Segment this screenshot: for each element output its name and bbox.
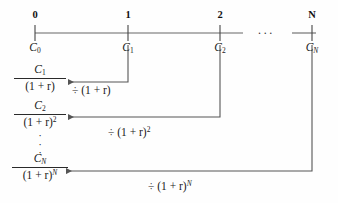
cash-flow-sub-2: 2: [222, 46, 226, 55]
operation-text-2: ÷ (1 + r): [108, 126, 147, 138]
operation-label-1: ÷ (1 + r): [72, 85, 111, 97]
operation-exp-2: 2: [147, 125, 151, 134]
fraction-denominator-1: (1 + r): [14, 80, 66, 93]
numerator-sub-1: 1: [42, 68, 46, 77]
numerator-base-2: C: [34, 99, 42, 111]
fraction-numerator-1: C1: [14, 63, 66, 77]
cash-flow-base-2: C: [214, 41, 222, 53]
fraction-numerator-2: C2: [14, 99, 66, 113]
denominator-exp-n: N: [52, 168, 57, 177]
period-label-2: 2: [217, 10, 222, 21]
cash-flow-base-n: C: [306, 41, 314, 53]
operation-exp-n: N: [187, 179, 192, 188]
fraction-bar-1: [14, 78, 66, 79]
operation-text-n: ÷ (1 + r): [148, 180, 187, 192]
discounted-value-1: C1 (1 + r): [14, 63, 66, 92]
discount-arrow-1: [68, 45, 128, 82]
fraction-bar-2: [14, 114, 66, 115]
cash-flow-label-0: C0: [29, 42, 40, 54]
operation-label-n: ÷ (1 + r)N: [148, 180, 192, 192]
fraction-numerator-n: CN: [12, 152, 68, 166]
discount-arrow-n: [66, 45, 312, 171]
cash-flow-base-1: C: [122, 41, 130, 53]
fraction-denominator-n: (1 + r)N: [12, 169, 68, 182]
discounted-cash-flow-diagram: 0 1 2 N ··· C0 C1 C2 CN C1 (1 + r) ÷ (1 …: [0, 0, 338, 203]
operation-label-2: ÷ (1 + r)2: [108, 126, 150, 138]
cash-flow-base-0: C: [29, 41, 37, 53]
numerator-sub-2: 2: [42, 104, 46, 113]
denominator-text-1: (1 + r): [25, 80, 54, 92]
cash-flow-sub-0: 0: [37, 46, 41, 55]
cash-flow-sub-n: N: [313, 46, 318, 55]
cash-flow-label-1: C1: [122, 42, 133, 54]
period-label-1: 1: [125, 10, 130, 21]
cash-flow-label-2: C2: [214, 42, 225, 54]
denominator-text-2: (1 + r): [23, 116, 52, 128]
denominator-exp-2: 2: [53, 115, 57, 124]
denominator-text-n: (1 + r): [23, 169, 52, 181]
numerator-sub-n: N: [41, 157, 46, 166]
discounted-value-2: C2 (1 + r)2: [14, 99, 66, 128]
cash-flow-sub-1: 1: [130, 46, 134, 55]
numerator-base-1: C: [34, 63, 42, 75]
timeline-ellipsis: ···: [258, 27, 275, 39]
period-label-0: 0: [32, 10, 37, 21]
period-label-n: N: [308, 10, 316, 21]
operation-text-1: ÷ (1 + r): [72, 84, 111, 96]
fraction-bar-n: [12, 167, 68, 168]
cash-flow-label-n: CN: [306, 42, 319, 54]
fraction-denominator-2: (1 + r)2: [14, 116, 66, 129]
discounted-value-n: CN (1 + r)N: [12, 152, 68, 181]
discount-arrow-2: [68, 45, 220, 117]
